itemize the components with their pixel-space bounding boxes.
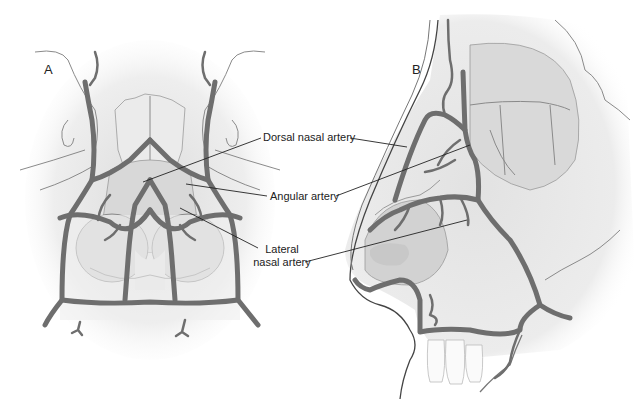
panel-label-a: A xyxy=(44,62,53,77)
panel-a-frontal-view xyxy=(20,40,280,360)
panel-label-b: B xyxy=(412,62,421,77)
panel-b-lateral-view xyxy=(345,14,635,399)
label-dorsal-nasal-artery: Dorsal nasal artery xyxy=(263,131,355,144)
label-lateral-nasal-artery: Lateral nasal artery xyxy=(246,243,318,269)
label-angular-artery: Angular artery xyxy=(270,190,339,203)
label-lateral-nasal-line1: Lateral xyxy=(246,243,318,256)
label-lateral-nasal-line2: nasal artery xyxy=(246,256,318,269)
